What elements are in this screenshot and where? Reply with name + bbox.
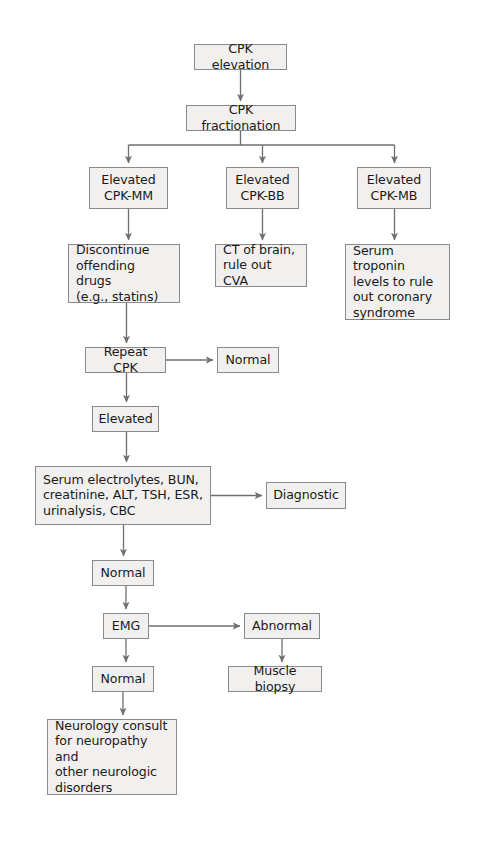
- node-label: Elevated CPK-BB: [235, 172, 289, 203]
- node-lab-panel[interactable]: Serum electrolytes, BUN, creatinine, ALT…: [35, 466, 211, 525]
- node-cpk-elevation[interactable]: CPK elevation: [194, 44, 287, 70]
- node-label: Normal: [226, 352, 271, 368]
- node-label: Normal: [101, 671, 146, 687]
- node-neurology-consult[interactable]: Neurology consult for neuropathy and oth…: [47, 719, 177, 795]
- node-elevated-cpk-mb[interactable]: Elevated CPK-MB: [357, 167, 431, 209]
- node-diagnostic[interactable]: Diagnostic: [266, 482, 346, 509]
- node-label: Elevated CPK-MB: [367, 172, 421, 203]
- node-normal-after-repeat[interactable]: Normal: [217, 347, 279, 373]
- node-serum-troponin[interactable]: Serum troponin levels to rule out corona…: [345, 244, 450, 320]
- node-normal-after-labs[interactable]: Normal: [92, 560, 154, 586]
- node-label: CT of brain, rule out CVA: [223, 242, 299, 289]
- node-muscle-biopsy[interactable]: Muscle biopsy: [228, 666, 322, 692]
- node-label: CPK elevation: [202, 41, 279, 72]
- node-label: Elevated: [98, 411, 152, 427]
- node-abnormal[interactable]: Abnormal: [244, 613, 320, 639]
- node-label: EMG: [112, 618, 140, 634]
- node-label: Elevated CPK-MM: [101, 172, 155, 203]
- node-normal-after-emg[interactable]: Normal: [92, 666, 154, 692]
- node-ct-of-brain[interactable]: CT of brain, rule out CVA: [215, 244, 307, 287]
- node-discontinue-offending-drugs[interactable]: Discontinue offending drugs (e.g., stati…: [68, 244, 180, 303]
- node-elevated-cpk-mm[interactable]: Elevated CPK-MM: [89, 167, 168, 209]
- node-label: Diagnostic: [273, 487, 339, 503]
- node-cpk-fractionation[interactable]: CPK fractionation: [186, 105, 296, 131]
- node-label: Discontinue offending drugs (e.g., stati…: [76, 242, 172, 304]
- flowchart-canvas: CPK elevation CPK fractionation Elevated…: [0, 0, 479, 858]
- node-label: Repeat CPK: [93, 344, 158, 375]
- node-emg[interactable]: EMG: [103, 613, 149, 639]
- node-elevated-after-repeat[interactable]: Elevated: [92, 406, 159, 432]
- node-label: Serum electrolytes, BUN, creatinine, ALT…: [43, 472, 203, 519]
- node-label: Serum troponin levels to rule out corona…: [353, 243, 442, 321]
- node-elevated-cpk-bb[interactable]: Elevated CPK-BB: [226, 167, 299, 209]
- node-label: Neurology consult for neuropathy and oth…: [55, 718, 169, 796]
- node-label: Muscle biopsy: [236, 663, 314, 694]
- node-label: Normal: [101, 565, 146, 581]
- node-label: CPK fractionation: [194, 102, 288, 133]
- node-label: Abnormal: [252, 618, 312, 634]
- node-repeat-cpk[interactable]: Repeat CPK: [85, 347, 166, 373]
